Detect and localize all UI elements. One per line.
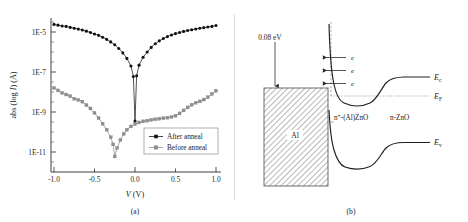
data-point [101, 36, 104, 39]
data-point [73, 27, 76, 30]
legend-label-before: Before anneal [167, 144, 207, 152]
label-EF-sub: F [439, 96, 442, 102]
x-tick-label-4: 1.0 [211, 175, 221, 184]
data-point [73, 97, 76, 100]
data-point [194, 101, 197, 104]
data-point [166, 116, 169, 119]
label-Ec-sub: c [439, 77, 442, 83]
label-Ev: Ev [433, 138, 442, 148]
data-point [52, 23, 55, 26]
series-line-after-anneal [54, 24, 216, 121]
data-point [129, 125, 132, 128]
panel-b-svg: Al 0.08 eV e e e [234, 0, 468, 222]
data-point [93, 32, 96, 35]
x-axis-title: V (V) [126, 190, 145, 199]
data-point [154, 118, 157, 121]
data-point [142, 120, 145, 123]
data-point [134, 123, 137, 126]
data-point [53, 86, 56, 89]
data-point [69, 26, 72, 29]
data-point [119, 138, 122, 141]
data-point [198, 100, 201, 103]
data-point [142, 56, 145, 59]
data-point [182, 30, 185, 33]
data-point [194, 27, 197, 30]
data-point [89, 31, 92, 34]
figure-container: 1E-5 1E-7 1E-9 1E-11 -1.0 -0.5 0.0 0.5 1… [0, 0, 468, 222]
x-tick-label-1: -0.5 [89, 175, 101, 184]
data-point [178, 31, 181, 34]
data-point [112, 143, 115, 146]
panel-b-caption: (b) [347, 207, 356, 216]
y-tick-label-1: 1E-7 [32, 68, 47, 77]
data-point [57, 24, 60, 27]
data-point [166, 35, 169, 38]
data-point [65, 25, 68, 28]
x-tick-label-2: 0.0 [130, 175, 140, 184]
data-point [113, 155, 116, 158]
label-EF: EF [433, 92, 442, 102]
legend-marker-before [154, 146, 158, 150]
electron-label-3: e [351, 80, 354, 88]
region-label-suffix: -(Al)ZnO [341, 114, 369, 122]
data-point [174, 114, 177, 117]
label-Ec: Ec [433, 73, 442, 83]
x-tick-label-0: -1.0 [48, 175, 60, 184]
data-point [210, 92, 213, 95]
data-point [125, 57, 128, 60]
legend-label-after: After anneal [167, 133, 203, 141]
data-point [150, 46, 153, 49]
data-point [162, 117, 165, 120]
conduction-band-curve [329, 24, 430, 106]
data-point [105, 128, 108, 131]
data-point [89, 107, 92, 110]
panel-a-caption: (a) [131, 207, 140, 216]
legend: After anneal Before anneal [144, 128, 218, 154]
x-axis-ticks [54, 167, 216, 172]
data-point [121, 51, 124, 54]
data-point [77, 28, 80, 31]
data-point [170, 116, 173, 119]
al-region-label: Al [291, 131, 299, 140]
y-tick-label-2: 1E-9 [32, 108, 47, 117]
panel-a-iv-plot: 1E-5 1E-7 1E-9 1E-11 -1.0 -0.5 0.0 0.5 1… [0, 0, 234, 222]
y-axis-title-p3: ) (A) [9, 71, 18, 87]
data-point [129, 64, 132, 67]
data-point [85, 30, 88, 33]
data-point [202, 26, 205, 29]
data-point [81, 100, 84, 103]
data-point [178, 112, 181, 115]
data-point [125, 128, 128, 131]
data-point [135, 74, 138, 77]
data-point [138, 64, 141, 67]
data-point [162, 37, 165, 40]
data-point [150, 118, 153, 121]
data-point [65, 93, 68, 96]
data-point [146, 50, 149, 53]
data-point [146, 119, 149, 122]
data-point [190, 103, 193, 106]
data-point [101, 122, 104, 125]
data-point [138, 121, 141, 124]
data-point [113, 43, 116, 46]
data-point [132, 75, 135, 78]
data-point [93, 111, 96, 114]
electron-label-2: e [351, 67, 354, 75]
data-point [206, 96, 209, 99]
data-point [69, 95, 72, 98]
data-point [117, 47, 120, 50]
electron-arrows: e e e [323, 54, 354, 88]
data-point [57, 89, 60, 92]
electron-label-1: e [351, 54, 354, 62]
x-tick-label-3: 0.5 [171, 175, 181, 184]
data-point [97, 117, 100, 120]
data-point [202, 98, 205, 101]
data-point [186, 29, 189, 32]
panel-b-band-diagram: Al 0.08 eV e e e [234, 0, 468, 222]
data-point [170, 33, 173, 36]
x-axis-title-unit: (V) [131, 190, 145, 199]
data-point [174, 32, 177, 35]
data-point [214, 24, 217, 27]
data-point [158, 39, 161, 42]
data-point [61, 91, 64, 94]
